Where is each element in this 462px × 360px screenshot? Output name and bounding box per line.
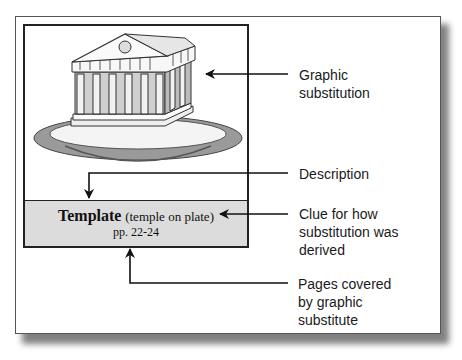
callout-text: substitution: [299, 84, 370, 102]
callout-text: substitute: [298, 311, 391, 329]
callout-text: by graphic: [298, 293, 391, 311]
callout-text: Clue for how: [299, 205, 399, 223]
callout-text: derived: [299, 241, 399, 259]
callout-clue: Clue for how substitution was derived: [299, 205, 399, 259]
arrow-pages: [130, 249, 288, 283]
callout-description: Description: [299, 165, 369, 183]
callout-graphic: Graphic substitution: [299, 66, 370, 102]
callout-pages: Pages covered by graphic substitute: [298, 275, 391, 329]
callout-text: Description: [299, 165, 369, 183]
callout-text: Graphic: [299, 66, 370, 84]
callout-arrows: [0, 0, 462, 360]
arrow-description: [89, 173, 288, 198]
callout-text: substitution was: [299, 223, 399, 241]
callout-text: Pages covered: [298, 275, 391, 293]
